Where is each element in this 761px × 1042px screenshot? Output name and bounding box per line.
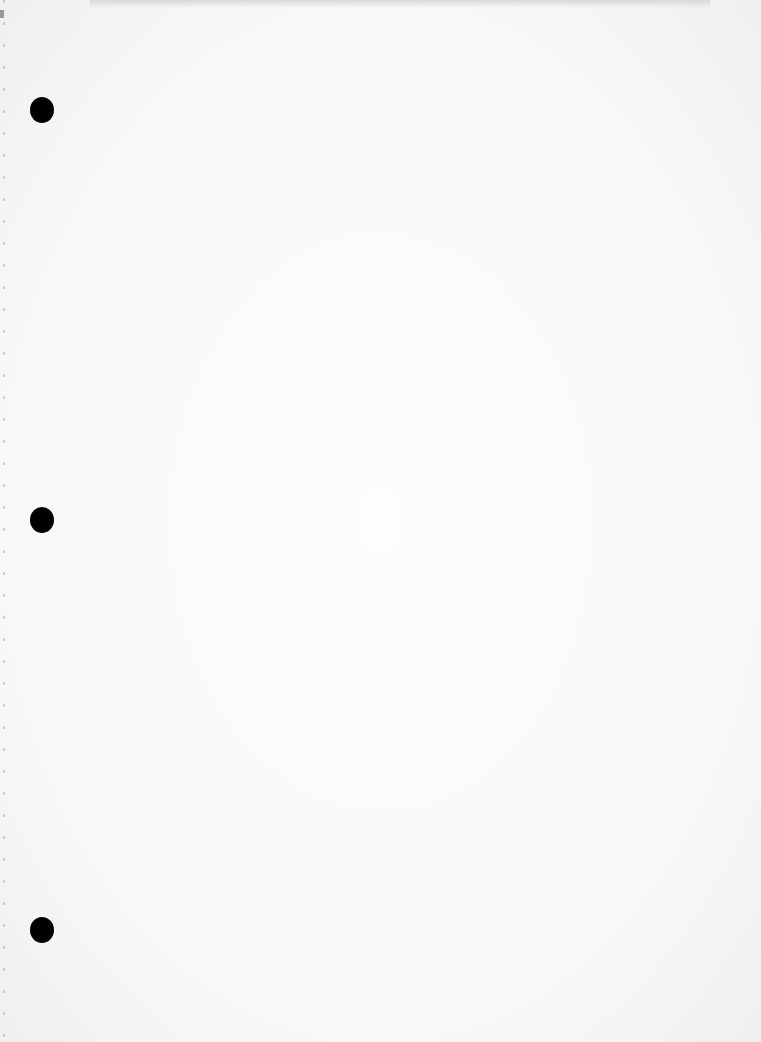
paper-sheet [0, 0, 761, 1042]
scan-edge-shadow [90, 0, 710, 8]
punch-hole-middle [30, 507, 54, 533]
punch-hole-top [30, 97, 54, 123]
perforation-line [3, 0, 5, 1042]
punch-hole-bottom [30, 917, 54, 943]
